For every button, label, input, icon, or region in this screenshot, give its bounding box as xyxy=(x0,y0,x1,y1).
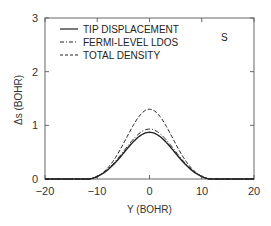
x-tick-label: −10 xyxy=(88,185,107,197)
y-tick-label: 0 xyxy=(32,173,38,185)
curve-dashdot xyxy=(45,129,254,179)
x-tick-label: 20 xyxy=(248,185,260,197)
y-tick-label: 1 xyxy=(32,119,38,131)
legend-label: TOTAL DENSITY xyxy=(83,50,160,61)
y-tick-label: 3 xyxy=(32,12,38,24)
legend-label: FERMI-LEVEL LDOS xyxy=(83,37,179,48)
x-tick-labels: −20 −10 0 10 20 xyxy=(36,185,260,197)
y-axis-title: Δs (BOHR) xyxy=(13,75,24,125)
x-tick-label: 10 xyxy=(196,185,208,197)
legend: TIP DISPLACEMENT FERMI-LEVEL LDOS TOTAL … xyxy=(60,24,179,61)
y-tick-label: 2 xyxy=(32,66,38,78)
curve-dashed xyxy=(45,109,254,179)
y-tick-labels: 0 1 2 3 xyxy=(32,12,38,185)
chart: 0 1 2 3 −20 −10 0 10 20 Y (BOHR) Δs (BOH… xyxy=(0,0,271,226)
legend-label: TIP DISPLACEMENT xyxy=(83,24,179,35)
curve-solid xyxy=(45,132,254,179)
x-tick-label: −20 xyxy=(36,185,55,197)
x-axis-title: Y (BOHR) xyxy=(127,204,172,215)
panel-annotation: S xyxy=(221,32,228,43)
x-tick-label: 0 xyxy=(146,185,152,197)
curves xyxy=(45,109,254,179)
